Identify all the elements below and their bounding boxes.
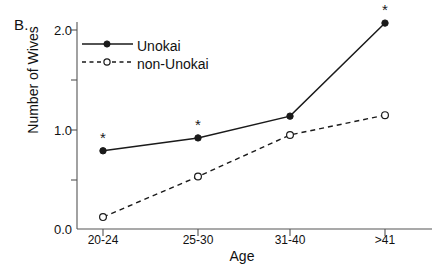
legend (82, 41, 133, 65)
series-significance-unokai: *** (100, 1, 388, 146)
data-point-unokai--41 (382, 20, 388, 26)
series-points-non-unokai (100, 112, 389, 221)
chart-canvas: *** (0, 0, 440, 270)
data-point-non-unokai--41 (382, 112, 389, 119)
data-point-non-unokai-31-40 (287, 132, 294, 139)
significance-star-25-30: * (195, 116, 201, 133)
series-line-unokai (103, 23, 385, 151)
chart-figure: B. Number of Wives 2.0 1.0 0.0 20-24 25-… (0, 0, 440, 270)
legend-marker-unokai (104, 41, 110, 47)
series-line-non-unokai (103, 115, 385, 217)
data-point-non-unokai-20-24 (100, 214, 107, 221)
series-points-unokai (100, 20, 388, 154)
data-point-unokai-20-24 (100, 148, 106, 154)
data-point-unokai-25-30 (195, 135, 201, 141)
legend-marker-non-unokai (104, 59, 110, 65)
data-point-non-unokai-25-30 (195, 173, 202, 180)
series-non-unokai (100, 112, 389, 221)
significance-star--41: * (382, 1, 388, 18)
significance-star-20-24: * (100, 129, 106, 146)
data-point-unokai-31-40 (287, 113, 293, 119)
series-unokai: *** (100, 1, 388, 154)
